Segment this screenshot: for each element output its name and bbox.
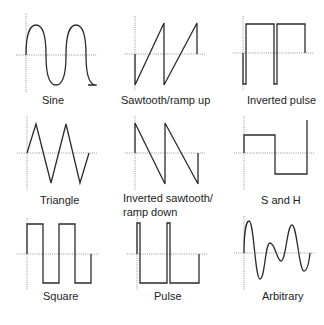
label-pulse: Pulse bbox=[154, 290, 182, 303]
pulse-waveform bbox=[137, 223, 199, 283]
sawtooth-wave-graph bbox=[125, 16, 206, 90]
label-arbitrary: Arbitrary bbox=[262, 290, 304, 303]
label-triangle: Triangle bbox=[40, 194, 79, 207]
pulse-wave-graph bbox=[127, 216, 208, 290]
arbitrary-wave-graph bbox=[234, 216, 314, 290]
square-wave-graph bbox=[17, 218, 99, 290]
inverted-sawtooth-waveform bbox=[135, 123, 198, 184]
inverted-pulse-waveform bbox=[243, 24, 305, 84]
arbitrary-waveform bbox=[244, 221, 310, 279]
sample-and-hold-waveform bbox=[244, 120, 307, 174]
sine-wave-graph bbox=[16, 14, 97, 92]
triangle-waveform bbox=[27, 124, 89, 183]
square-waveform bbox=[27, 224, 91, 283]
label-inverted-sawtooth-line2: ramp down bbox=[123, 206, 177, 219]
label-inverted-pulse: Inverted pulse bbox=[247, 94, 316, 107]
label-sine: Sine bbox=[42, 94, 64, 107]
label-square: Square bbox=[43, 290, 78, 303]
label-s-and-h: S and H bbox=[261, 194, 301, 207]
label-inverted-sawtooth-line1: Inverted sawtooth/ bbox=[123, 192, 213, 205]
waveform-diagram bbox=[0, 0, 324, 325]
sample-and-hold-graph bbox=[234, 116, 314, 190]
inverted-sawtooth-wave-graph bbox=[125, 116, 206, 190]
label-sawtooth: Sawtooth/ramp up bbox=[121, 94, 210, 107]
sawtooth-waveform bbox=[135, 23, 197, 85]
triangle-wave-graph bbox=[17, 116, 97, 190]
inverted-pulse-graph bbox=[233, 16, 314, 90]
